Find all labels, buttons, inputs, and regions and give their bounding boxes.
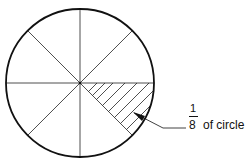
center-point (79, 82, 82, 85)
hatch-pattern (60, 80, 188, 148)
fraction-bar (189, 116, 198, 117)
fraction-caption: of circle (203, 119, 244, 131)
circle-eighths-diagram (0, 0, 245, 166)
fraction-numerator: 1 (190, 103, 196, 114)
fraction-denominator: 8 (189, 119, 196, 131)
